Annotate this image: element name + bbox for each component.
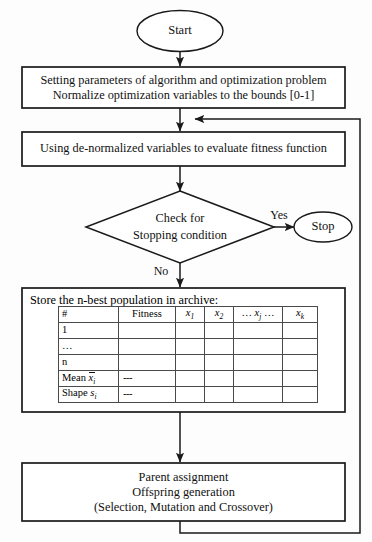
row-xj: [234, 339, 283, 355]
row-xk: [283, 355, 318, 371]
row-x2: [205, 355, 234, 371]
table-row: n: [59, 355, 318, 371]
row-x2: [205, 387, 234, 403]
row-label: n: [59, 355, 119, 371]
header-x2: x2: [205, 307, 234, 323]
xj-prefix: …: [241, 307, 252, 318]
row-xj: [234, 387, 283, 403]
mean-word: Mean: [62, 372, 86, 383]
shape-word: Shape: [62, 387, 88, 398]
row-fitness: [119, 339, 176, 355]
row-fitness: ---: [119, 387, 176, 403]
row-x1: [176, 323, 205, 339]
row-label: 1: [59, 323, 119, 339]
row-x1: [176, 387, 205, 403]
header-x1: x1: [176, 307, 205, 323]
header-fitness: Fitness: [119, 307, 176, 323]
table-row: 1: [59, 323, 318, 339]
row-x1: [176, 339, 205, 355]
row-x2: [205, 339, 234, 355]
row-xk: [283, 371, 318, 387]
setup-box: [22, 67, 345, 108]
stop-terminator: [294, 212, 352, 242]
x2-sub: 2: [219, 312, 223, 321]
decision-diamond: [86, 191, 274, 263]
table-row: …: [59, 339, 318, 355]
row-xj: [234, 323, 283, 339]
xj-sub: j: [259, 312, 261, 321]
row-fitness: ---: [119, 371, 176, 387]
xj-suffix: …: [264, 307, 275, 318]
evaluate-box: [22, 132, 345, 166]
table-row-shape: Shape si ---: [59, 387, 318, 403]
shape-sub: i: [94, 392, 96, 401]
table-row-mean: Mean xi ---: [59, 371, 318, 387]
row-x2: [205, 323, 234, 339]
flowchart-shapes: [0, 0, 372, 542]
row-xj: [234, 355, 283, 371]
flowchart-canvas: Start Setting parameters of algorithm an…: [0, 0, 372, 542]
row-x2: [205, 371, 234, 387]
row-fitness: [119, 355, 176, 371]
row-xk: [283, 339, 318, 355]
header-xk: xk: [283, 307, 318, 323]
row-x1: [176, 355, 205, 371]
archive-table: # Fitness x1 x2 … xj … xk 1 …: [58, 306, 318, 403]
table-header-row: # Fitness x1 x2 … xj … xk: [59, 307, 318, 323]
header-index: #: [59, 307, 119, 323]
reproduce-box: [22, 463, 345, 521]
row-label-mean: Mean xi: [59, 371, 119, 387]
row-xj: [234, 371, 283, 387]
row-label-shape: Shape si: [59, 387, 119, 403]
mean-sub: i: [93, 377, 95, 386]
row-label: …: [59, 339, 119, 355]
row-xk: [283, 387, 318, 403]
row-xk: [283, 323, 318, 339]
header-xj: … xj …: [234, 307, 283, 323]
start-terminator: [137, 11, 223, 52]
x1-sub: 1: [190, 312, 194, 321]
xk-sub: k: [301, 312, 304, 321]
row-x1: [176, 371, 205, 387]
row-fitness: [119, 323, 176, 339]
